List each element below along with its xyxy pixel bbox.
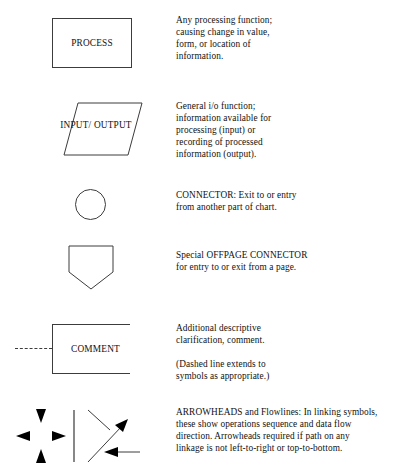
legend-row-comment: COMMENT Additional descriptive clarifica… xyxy=(0,310,408,400)
arrowheads-description: ARROWHEADS and Flowlines: In linking sym… xyxy=(176,406,408,454)
offpage-connector-description: Special OFFPAGE CONNECTOR for entry to o… xyxy=(176,249,404,273)
symbol-cell-process: PROCESS xyxy=(0,0,172,92)
pentagon-shape xyxy=(68,245,114,290)
comment-symbol: COMMENT xyxy=(0,310,172,400)
legend-row-connector: CONNECTOR: Exit to or entry from another… xyxy=(0,178,408,238)
flowchart-symbol-legend: PROCESS Any processing function; causing… xyxy=(0,0,408,473)
process-symbol-label: PROCESS xyxy=(71,38,113,49)
comment-description-secondary: (Dashed line extends to symbols as appro… xyxy=(176,358,404,382)
connector-description: CONNECTOR: Exit to or entry from another… xyxy=(176,189,404,213)
comment-description-primary: Additional descriptive clarification, co… xyxy=(176,322,404,346)
offpage-connector-symbol xyxy=(68,245,114,290)
comment-bracket: COMMENT xyxy=(52,324,130,374)
arrowheads-diagram xyxy=(0,400,172,473)
arrowhead-up-right-icon xyxy=(115,419,128,432)
symbol-cell-connector xyxy=(0,178,172,238)
dashed-connector-line xyxy=(15,348,52,349)
process-description: Any processing function; causing change … xyxy=(176,14,404,62)
input-output-description: General i/o function; information availa… xyxy=(176,100,404,160)
arrowhead-left-horizontal-icon xyxy=(104,447,118,457)
symbol-cell-input-output: INPUT/ OUTPUT xyxy=(0,92,172,178)
symbol-cell-arrowheads xyxy=(0,400,172,473)
input-output-symbol-label: INPUT/ OUTPUT xyxy=(46,114,146,132)
legend-row-arrowheads: ARROWHEADS and Flowlines: In linking sym… xyxy=(0,400,408,473)
arrowhead-up-icon xyxy=(36,449,46,463)
description-cell-arrowheads: ARROWHEADS and Flowlines: In linking sym… xyxy=(176,406,408,454)
legend-row-input-output: INPUT/ OUTPUT General i/o function; info… xyxy=(0,92,408,178)
symbol-cell-offpage-connector xyxy=(0,238,172,310)
description-cell-offpage-connector: Special OFFPAGE CONNECTOR for entry to o… xyxy=(176,249,404,273)
arrowhead-left-icon xyxy=(52,431,66,441)
process-symbol: PROCESS xyxy=(52,18,132,68)
comment-symbol-label: COMMENT xyxy=(63,344,120,355)
connector-circle-symbol xyxy=(75,189,106,220)
arrowhead-down-icon xyxy=(36,409,46,423)
arrowhead-right-icon xyxy=(16,431,30,441)
symbol-cell-comment: COMMENT xyxy=(0,310,172,400)
diagonal-flowline xyxy=(88,410,110,430)
legend-row-offpage-connector: Special OFFPAGE CONNECTOR for entry to o… xyxy=(0,238,408,310)
arrowheads-symbol xyxy=(0,400,172,472)
description-cell-comment: Additional descriptive clarification, co… xyxy=(176,322,404,382)
description-cell-connector: CONNECTOR: Exit to or entry from another… xyxy=(176,189,404,213)
description-cell-process: Any processing function; causing change … xyxy=(176,14,404,62)
legend-row-process: PROCESS Any processing function; causing… xyxy=(0,0,408,92)
description-cell-input-output: General i/o function; information availa… xyxy=(176,100,404,160)
input-output-symbol: INPUT/ OUTPUT xyxy=(46,101,146,157)
